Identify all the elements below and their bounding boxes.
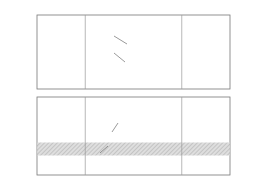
bottom-plot-frame	[37, 97, 230, 175]
residual-threshold-band	[37, 143, 230, 156]
top-plot-frame	[37, 15, 230, 89]
chart-figure	[0, 0, 270, 196]
top-panel	[37, 15, 230, 89]
